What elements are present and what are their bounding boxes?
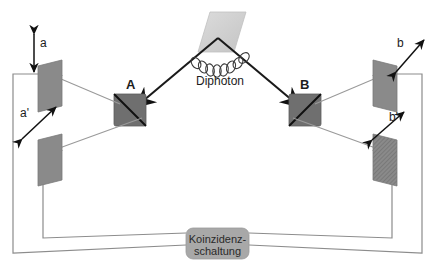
ray-A-to-a bbox=[54, 76, 120, 104]
ray-B-to-b bbox=[315, 76, 381, 104]
beamsplitter-A bbox=[114, 94, 146, 126]
detector-b-prime bbox=[373, 134, 397, 186]
wiring-harness bbox=[13, 74, 422, 253]
source-label: Diphoton bbox=[196, 74, 244, 88]
wire-detector-a-prime bbox=[43, 148, 186, 238]
coincidence-unit-label: Koinzidenz- schaltung bbox=[186, 233, 249, 257]
beamsplitter-A-label: A bbox=[126, 77, 135, 92]
detector-a bbox=[38, 60, 62, 112]
beamsplitter-B-label: B bbox=[300, 77, 309, 92]
figure-canvas: Diphoton A B a a' b b' Koinzidenz- schal… bbox=[0, 0, 435, 275]
ray-A-to-a-prime bbox=[54, 118, 142, 150]
beamsplitter-B bbox=[289, 94, 321, 126]
beam-to-splitter-B bbox=[218, 38, 299, 106]
detector-b-label: b bbox=[397, 36, 404, 50]
detector-a-label: a bbox=[40, 36, 47, 50]
polarization-arrow-b-prime bbox=[372, 112, 404, 140]
ray-B-to-b-prime bbox=[293, 118, 381, 150]
detector-a-prime-label: a' bbox=[20, 106, 29, 120]
detector-b-prime-label: b' bbox=[389, 110, 398, 124]
wire-detector-b-prime bbox=[249, 148, 392, 238]
detector-b bbox=[373, 60, 397, 112]
diphoton-source-crystal bbox=[198, 12, 246, 52]
detector-a-prime bbox=[38, 134, 62, 186]
